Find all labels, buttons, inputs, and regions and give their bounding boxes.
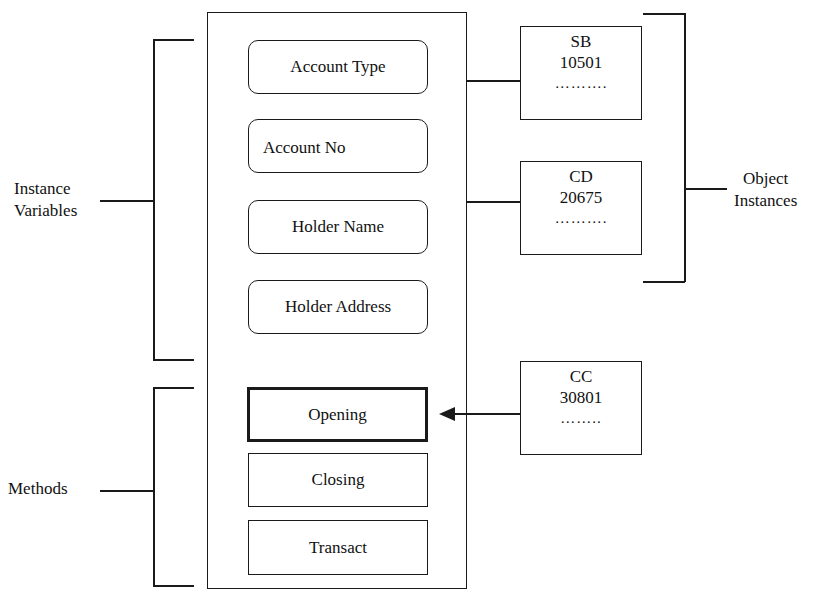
object-number: 10501	[521, 52, 641, 73]
method-opening: Opening	[247, 387, 428, 442]
method-label: Opening	[308, 405, 367, 425]
object-number: 20675	[521, 187, 641, 208]
variable-label: Holder Name	[292, 217, 384, 237]
object-instance-cc: CC 30801 ……..	[520, 361, 642, 455]
method-label: Transact	[309, 538, 367, 558]
instance-variables-bracket-bottom	[153, 359, 194, 361]
instance-variables-connector	[100, 200, 154, 202]
instance-variables-bracket-vertical	[153, 39, 155, 360]
cd-connector	[466, 201, 520, 203]
instance-variables-bracket-top	[153, 39, 194, 41]
variable-account-no: Account No	[248, 119, 428, 173]
variable-holder-name: Holder Name	[248, 200, 428, 254]
method-transact: Transact	[248, 520, 428, 575]
object-type: SB	[521, 31, 641, 52]
object-instances-bracket-bottom	[643, 281, 685, 283]
object-type: CC	[521, 366, 641, 387]
methods-bracket-bottom	[153, 585, 194, 587]
cc-arrowhead-icon	[439, 407, 455, 421]
object-ellipsis: ……….	[521, 73, 641, 93]
object-instances-label: Object Instances	[734, 168, 797, 212]
object-instances-bracket-vertical	[684, 13, 686, 282]
object-ellipsis: ……..	[521, 408, 641, 428]
object-instances-label-line1: Object	[734, 168, 797, 190]
variable-label: Account No	[263, 138, 346, 158]
variable-label: Account Type	[290, 57, 385, 77]
object-instances-label-line2: Instances	[734, 190, 797, 212]
methods-label: Methods	[8, 478, 68, 500]
object-number: 30801	[521, 387, 641, 408]
variable-holder-address: Holder Address	[248, 280, 428, 334]
methods-connector	[100, 490, 154, 492]
variable-account-type: Account Type	[248, 40, 428, 94]
method-label: Closing	[312, 470, 365, 490]
object-ellipsis: ……….	[521, 208, 641, 228]
object-type: CD	[521, 166, 641, 187]
instance-variables-label-line2: Variables	[14, 200, 77, 222]
object-instances-bracket-top	[643, 13, 685, 15]
object-instance-cd: CD 20675 ……….	[520, 161, 642, 255]
variable-label: Holder Address	[285, 297, 391, 317]
class-object-diagram: Instance Variables Methods Account Type …	[0, 0, 818, 598]
instance-variables-label: Instance Variables	[14, 178, 77, 222]
object-instances-connector	[685, 188, 727, 190]
cc-arrow-shaft	[452, 413, 520, 415]
sb-connector	[466, 80, 520, 82]
method-closing: Closing	[248, 453, 428, 507]
methods-bracket-vertical	[153, 387, 155, 586]
object-instance-sb: SB 10501 ……….	[520, 26, 642, 120]
instance-variables-label-line1: Instance	[14, 178, 77, 200]
methods-bracket-top	[153, 387, 194, 389]
